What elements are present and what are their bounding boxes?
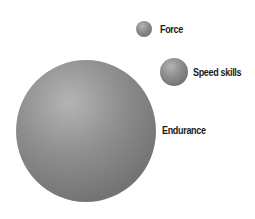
bubble-speed-skills [160,58,188,86]
bubble-chart: Force Speed skills Endurance [0,0,255,219]
label-speed-skills: Speed skills [193,66,241,78]
bubble-endurance [16,60,156,202]
label-endurance: Endurance [162,124,206,136]
label-force: Force [160,23,183,35]
bubble-force [136,21,152,37]
